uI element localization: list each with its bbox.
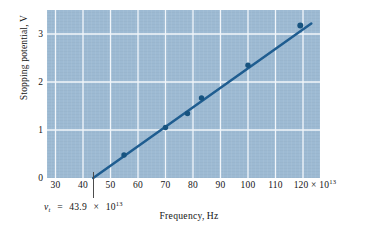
y-tick-3: 3 xyxy=(30,29,43,39)
data-point xyxy=(121,152,126,157)
data-point xyxy=(185,111,190,116)
y-tick-2: 2 xyxy=(30,77,43,87)
x-tick-30: 30 xyxy=(51,180,61,190)
data-point xyxy=(297,22,303,28)
x-tick-90: 90 xyxy=(216,180,226,190)
photoelectric-effect-chart: 0 1 2 3 30 40 50 60 70 80 90 100 110 120… xyxy=(0,0,378,242)
threshold-leader-line xyxy=(93,172,94,198)
y-tick-1: 1 xyxy=(30,125,43,135)
equals-sign: = xyxy=(57,201,63,212)
x-tick-100: 100 xyxy=(241,180,256,190)
threshold-frequency-annotation: νt = 43.9 × 1013 xyxy=(44,201,123,212)
x-axis-title-text: Frequency, xyxy=(159,210,204,221)
x-tick-40: 40 xyxy=(78,180,88,190)
vertical-gridlines xyxy=(56,10,304,178)
data-point xyxy=(163,125,168,130)
x-exponent: 13 xyxy=(329,178,336,185)
x-tick-120-value: 120 xyxy=(294,180,309,190)
x-tick-70: 70 xyxy=(161,180,171,190)
x-exponent-mult: × 10 xyxy=(311,180,329,190)
data-point xyxy=(199,95,204,100)
horizontal-gridlines xyxy=(47,34,320,130)
nu-subscript: t xyxy=(48,206,50,213)
exponent-base: 10 xyxy=(106,201,116,212)
y-tick-0: 0 xyxy=(30,173,43,183)
plot-canvas xyxy=(47,10,320,178)
x-tick-50: 50 xyxy=(106,180,116,190)
x-tick-110: 110 xyxy=(268,180,283,190)
y-axis-title: Stopping potential, V xyxy=(18,0,29,133)
x-axis-unit: Hz xyxy=(207,210,219,221)
threshold-value: 43.9 xyxy=(69,201,87,212)
data-point xyxy=(245,63,250,68)
x-tick-80: 80 xyxy=(188,180,198,190)
x-tick-120-with-exponent: 120 × 1013 xyxy=(294,180,336,190)
exponent-power: 13 xyxy=(116,200,123,207)
plot-area xyxy=(47,10,320,178)
x-tick-60: 60 xyxy=(133,180,143,190)
